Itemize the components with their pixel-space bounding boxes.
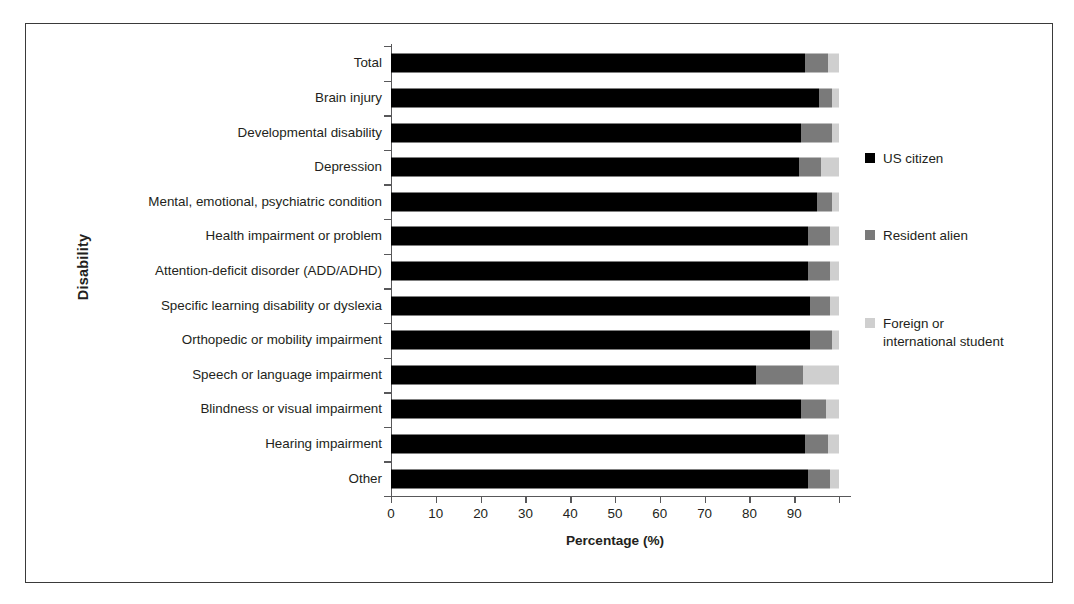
y-axis-tick-label: Attention-deficit disorder (ADD/ADHD) xyxy=(155,264,382,279)
bar-segment xyxy=(391,296,810,315)
bar-row: Specific learning disability or dyslexia xyxy=(391,288,839,323)
bar-segment xyxy=(830,261,839,280)
legend-label: Resident alien xyxy=(883,227,968,245)
y-axis-tick xyxy=(384,323,391,324)
bar-row: Attention-deficit disorder (ADD/ADHD) xyxy=(391,254,839,289)
y-axis-tick xyxy=(384,288,391,289)
x-axis-tick-label: 20 xyxy=(461,506,501,521)
bar-segment xyxy=(391,261,808,280)
y-axis-tick-label: Health impairment or problem xyxy=(206,229,382,244)
y-axis-tick-label: Specific learning disability or dyslexia xyxy=(161,298,382,313)
legend-label: Foreign or international student xyxy=(883,315,1015,350)
bar-segment xyxy=(810,296,830,315)
legend-item: Foreign or international student xyxy=(865,315,1015,350)
bar-row: Speech or language impairment xyxy=(391,358,839,393)
chart-figure: Disability TotalBrain injuryDevelopmenta… xyxy=(0,0,1074,604)
bar-segment xyxy=(830,296,839,315)
bar-row: Health impairment or problem xyxy=(391,219,839,254)
y-axis-tick xyxy=(384,496,391,497)
x-axis-title: Percentage (%) xyxy=(391,533,839,548)
x-axis-tick-label: 70 xyxy=(685,506,725,521)
bar-segment xyxy=(830,469,839,488)
stacked-bar xyxy=(391,365,839,384)
bar-row: Total xyxy=(391,46,839,81)
x-axis-tick xyxy=(391,496,392,503)
y-axis-tick xyxy=(384,254,391,255)
bar-row: Depression xyxy=(391,150,839,185)
stacked-bar xyxy=(391,331,839,350)
x-axis-tick xyxy=(794,496,795,503)
bar-row: Blindness or visual impairment xyxy=(391,392,839,427)
x-axis-tick xyxy=(525,496,526,503)
stacked-bar xyxy=(391,54,839,73)
stacked-bar xyxy=(391,296,839,315)
stacked-bar xyxy=(391,158,839,177)
x-axis-tick xyxy=(839,496,840,503)
bar-row: Brain injury xyxy=(391,81,839,116)
bar-segment xyxy=(391,54,805,73)
y-axis-tick-label: Total xyxy=(354,56,382,71)
y-axis-tick xyxy=(384,427,391,428)
bar-segment xyxy=(756,365,803,384)
x-axis-tick-label: 60 xyxy=(640,506,680,521)
stacked-bar xyxy=(391,227,839,246)
x-axis-tick xyxy=(660,496,661,503)
bar-segment xyxy=(832,192,839,211)
bar-segment xyxy=(826,400,839,419)
bar-segment xyxy=(391,227,808,246)
bar-segment xyxy=(805,54,827,73)
y-axis-tick xyxy=(384,392,391,393)
stacked-bar xyxy=(391,261,839,280)
y-axis-tick-label: Developmental disability xyxy=(238,125,382,140)
bar-segment xyxy=(803,365,839,384)
bar-segment xyxy=(808,227,830,246)
y-axis-tick-label: Blindness or visual impairment xyxy=(200,402,382,417)
bar-segment xyxy=(391,400,801,419)
stacked-bar xyxy=(391,123,839,142)
legend-swatch-icon xyxy=(865,230,875,240)
bar-segment xyxy=(821,158,839,177)
bar-segment xyxy=(832,123,839,142)
x-axis-tick-label: 40 xyxy=(550,506,590,521)
y-axis-tick-label: Depression xyxy=(314,160,382,175)
bar-segment xyxy=(832,331,839,350)
x-axis-tick-label: 30 xyxy=(505,506,545,521)
bar-segment xyxy=(801,123,832,142)
y-axis-tick xyxy=(384,461,391,462)
x-axis-tick-label: 0 xyxy=(371,506,411,521)
stacked-bar xyxy=(391,435,839,454)
bar-segment xyxy=(810,331,832,350)
bar-segment xyxy=(391,88,819,107)
stacked-bar xyxy=(391,400,839,419)
bar-segment xyxy=(819,88,832,107)
bar-segment xyxy=(828,54,839,73)
y-axis-tick xyxy=(384,358,391,359)
bar-row: Other xyxy=(391,461,839,496)
x-axis-tick xyxy=(570,496,571,503)
bar-segment xyxy=(391,365,756,384)
bar-segment xyxy=(808,261,830,280)
figure-border: Disability TotalBrain injuryDevelopmenta… xyxy=(25,23,1053,583)
y-axis-tick xyxy=(384,81,391,82)
x-axis-tick-label: 10 xyxy=(416,506,456,521)
bar-segment xyxy=(828,435,839,454)
bar-segment xyxy=(391,469,808,488)
plot-area: TotalBrain injuryDevelopmental disabilit… xyxy=(391,46,839,496)
bar-row: Orthopedic or mobility impairment xyxy=(391,323,839,358)
y-axis-tick xyxy=(384,46,391,47)
bar-segment xyxy=(832,88,839,107)
x-axis-tick-label: 80 xyxy=(729,506,769,521)
bar-segment xyxy=(805,435,827,454)
y-axis-title: Disability xyxy=(75,192,91,342)
x-axis-tick xyxy=(705,496,706,503)
bar-segment xyxy=(830,227,839,246)
x-axis-tick xyxy=(615,496,616,503)
y-axis-tick xyxy=(384,219,391,220)
y-axis-tick xyxy=(384,150,391,151)
bar-segment xyxy=(391,158,799,177)
legend-swatch-icon xyxy=(865,318,875,328)
y-axis-tick-label: Other xyxy=(349,471,383,486)
bar-row: Developmental disability xyxy=(391,115,839,150)
stacked-bar xyxy=(391,88,839,107)
x-axis-tick-label: 90 xyxy=(774,506,814,521)
